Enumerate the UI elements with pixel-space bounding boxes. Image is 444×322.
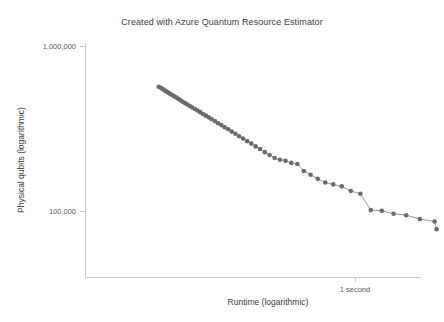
data-point (278, 157, 283, 162)
y-axis-title: Physical qubits (logarithmic) (16, 107, 26, 213)
data-point (283, 158, 288, 163)
series-line-pareto (159, 87, 437, 230)
y-tick-label-bottom: 100,000 (49, 207, 76, 216)
data-point (348, 189, 353, 194)
data-point (253, 144, 258, 149)
data-point (379, 208, 384, 213)
data-point (391, 211, 396, 216)
x-axis-title: Runtime (logarithmic) (228, 297, 309, 307)
data-point (308, 172, 313, 177)
data-point (237, 134, 242, 139)
data-point (358, 192, 363, 197)
data-point (404, 213, 409, 218)
data-point (258, 147, 263, 152)
series-group (156, 84, 438, 231)
data-point (289, 161, 294, 166)
series-markers-pareto (156, 84, 438, 231)
y-tick-label-top: 1,000,000 (43, 42, 76, 51)
data-point (241, 136, 246, 141)
plot-area: 1,000,000 100,000 1 second Physical qubi… (0, 0, 444, 322)
x-tick-label-one-second: 1 second (340, 285, 370, 294)
data-point (295, 162, 300, 167)
data-point (331, 182, 336, 187)
data-point (323, 180, 328, 185)
data-point (368, 208, 373, 213)
data-point (267, 153, 272, 158)
data-point (249, 141, 254, 146)
data-point (301, 169, 306, 174)
data-point (432, 219, 437, 224)
data-point (339, 184, 344, 189)
data-point (233, 131, 238, 136)
data-point (245, 139, 250, 144)
data-point (434, 227, 439, 232)
data-point (418, 217, 423, 222)
data-point (272, 156, 277, 161)
data-point (262, 150, 267, 155)
chart-canvas: Created with Azure Quantum Resource Esti… (0, 0, 444, 322)
data-point (315, 176, 320, 181)
